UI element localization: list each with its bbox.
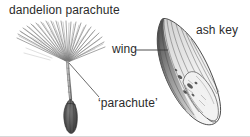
label-wing: wing	[112, 43, 137, 56]
diagram-artwork	[0, 0, 250, 137]
label-ash-key: ash key	[196, 24, 238, 37]
dandelion-parachute-drawing	[17, 21, 105, 133]
label-parachute: ‘parachute’	[98, 97, 158, 110]
seed-dispersal-figure: dandelion parachute ash key wing ‘parach…	[0, 0, 250, 137]
parachute-leader-line	[69, 63, 99, 97]
label-dandelion-parachute: dandelion parachute	[9, 4, 120, 17]
